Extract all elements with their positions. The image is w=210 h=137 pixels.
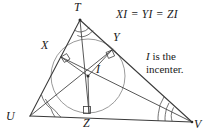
side-uv <box>30 116 192 122</box>
point-dot-t <box>79 19 82 22</box>
vertex-label-u: U <box>6 110 15 122</box>
angle-arc-u-lower-2 <box>56 111 61 117</box>
incenter-statement-text: is the <box>150 50 176 62</box>
angle-arc-t-left-2 <box>77 35 81 37</box>
angle-arc-t-left <box>75 30 82 32</box>
vertex-label-t: T <box>74 1 81 13</box>
vertex-label-v: V <box>194 118 201 130</box>
incenter-statement-line2: incenter. <box>146 63 184 76</box>
angle-arc-u-upper <box>42 95 52 109</box>
incenter-geometry-figure: T U V X Y Z I XI = YI = ZI I is the ince… <box>0 0 210 137</box>
bisector-from-t <box>80 20 89 113</box>
equation-annotation: XI = YI = ZI <box>116 8 178 20</box>
tangent-point-label-y: Y <box>113 31 120 43</box>
tangent-point-label-x: X <box>41 39 48 51</box>
point-dot-v <box>191 121 194 124</box>
angle-arc-t-right <box>81 27 89 32</box>
angle-arc-v-a <box>158 97 164 114</box>
incenter-statement: I is the incenter. <box>146 50 184 76</box>
side-tu <box>30 20 80 116</box>
radius-to-y <box>88 50 112 76</box>
incenter-statement-line1: I is the <box>146 50 184 63</box>
incenter-label: I <box>96 63 100 75</box>
tangent-point-label-z: Z <box>83 117 90 129</box>
angle-arc-v-f <box>171 116 172 122</box>
point-dot-incenter <box>87 75 90 78</box>
bisector-from-u <box>30 50 112 116</box>
